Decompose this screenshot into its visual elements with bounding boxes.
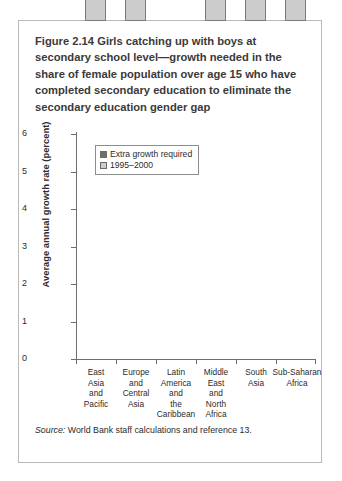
y-tick-5 — [71, 172, 76, 173]
legend-swatch-icon — [100, 162, 107, 169]
bar-segment-1995-2000 — [125, 0, 146, 21]
chart-plot-area: Average annual growth rate (percent) 0 1… — [19, 21, 323, 464]
x-tick-0 — [76, 359, 77, 364]
x-label-line: Africa — [190, 409, 242, 420]
y-tick-label-1: 1 — [0, 316, 27, 326]
x-label-line: Sub-Saharan — [268, 367, 326, 378]
legend-item-extra-growth[interactable]: Extra growth required — [100, 149, 192, 160]
chart-legend: Extra growth required 1995–2000 — [95, 145, 199, 175]
bar-segment-1995-2000 — [285, 0, 306, 21]
y-tick-label-0: 0 — [0, 353, 27, 363]
x-tick-1 — [116, 359, 117, 364]
y-tick-4 — [71, 209, 76, 210]
y-axis-line — [76, 132, 77, 361]
x-label-sub-saharan-africa: Sub-Saharan Africa — [268, 367, 326, 388]
x-tick-6 — [315, 359, 316, 364]
y-tick-label-6: 6 — [0, 128, 27, 138]
x-tick-4 — [236, 359, 237, 364]
source-text: World Bank staff calculations and refere… — [65, 425, 251, 435]
bar-segment-1995-2000 — [85, 0, 106, 21]
y-axis-label: Average annual growth rate (percent) — [40, 115, 51, 295]
x-label-line: and — [190, 388, 242, 399]
x-tick-2 — [156, 359, 157, 364]
y-tick-6 — [71, 134, 76, 135]
bar-segment-1995-2000 — [245, 0, 266, 21]
figure-source: Source: World Bank staff calculations an… — [35, 425, 311, 435]
figure-container: Figure 2.14 Girls catching up with boys … — [18, 20, 322, 463]
x-tick-5 — [276, 359, 277, 364]
y-tick-3 — [71, 247, 76, 248]
x-label-line: North — [190, 399, 242, 410]
y-tick-label-4: 4 — [0, 203, 27, 213]
x-tick-3 — [196, 359, 197, 364]
y-tick-label-2: 2 — [0, 278, 27, 288]
legend-label: Extra growth required — [110, 149, 192, 160]
y-tick-1 — [71, 322, 76, 323]
legend-item-1995-2000[interactable]: 1995–2000 — [100, 160, 192, 171]
bar-segment-1995-2000 — [205, 0, 226, 21]
legend-swatch-icon — [100, 151, 107, 158]
x-label-line: Africa — [268, 378, 326, 389]
y-tick-label-3: 3 — [0, 241, 27, 251]
y-tick-2 — [71, 284, 76, 285]
legend-label: 1995–2000 — [110, 160, 153, 171]
source-prefix: Source: — [35, 425, 65, 435]
y-tick-label-5: 5 — [0, 166, 27, 176]
